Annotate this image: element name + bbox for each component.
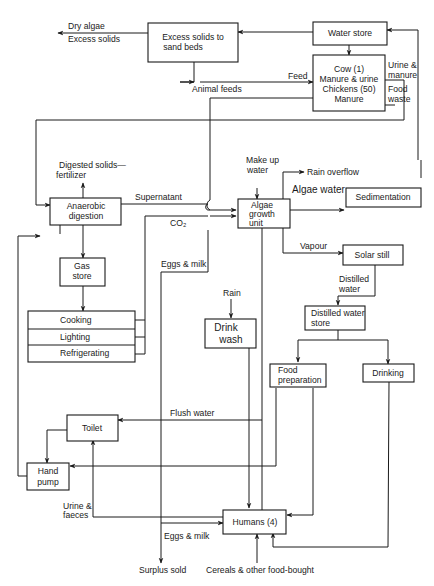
- node-distilled-water-store: Distilled water store: [305, 306, 365, 330]
- svg-text:Excess solids to: Excess solids to: [162, 32, 224, 42]
- svg-text:Distilled water: Distilled water: [311, 308, 365, 318]
- svg-text:Humans (4): Humans (4): [233, 517, 278, 527]
- label-eggs-milk-bottom: Eggs & milk: [164, 531, 210, 541]
- svg-text:unit: unit: [249, 218, 263, 228]
- svg-text:Drink: Drink: [214, 322, 238, 333]
- label-digested-solids-1: fertilizer: [56, 170, 86, 180]
- node-appliances: Cooking Lighting Refrigerating: [28, 311, 135, 362]
- label-dry-algae: Dry algae: [68, 21, 105, 31]
- label-food-waste-0: Food: [388, 84, 408, 94]
- label-rain: Rain: [223, 288, 241, 298]
- svg-text:Water store: Water store: [328, 28, 372, 38]
- svg-text:Solar still: Solar still: [355, 250, 390, 260]
- node-algae-growth-unit: Algae growth unit: [238, 199, 290, 228]
- label-rain-overflow: Rain overflow: [307, 167, 360, 177]
- svg-text:Refrigerating: Refrigerating: [60, 348, 109, 358]
- node-toilet: Toilet: [67, 415, 118, 441]
- svg-text:digestion: digestion: [69, 211, 104, 221]
- node-cow-chickens: Cow (1) Manure & urine Chickens (50) Man…: [313, 55, 385, 111]
- svg-text:Chickens (50): Chickens (50): [322, 84, 375, 94]
- svg-text:Toilet: Toilet: [82, 423, 103, 433]
- label-vapour: Vapour: [300, 241, 327, 251]
- node-drinking: Drinking: [363, 364, 414, 382]
- svg-text:Cow (1): Cow (1): [334, 64, 364, 74]
- svg-text:Lighting: Lighting: [60, 332, 90, 342]
- node-solar-still: Solar still: [343, 245, 403, 265]
- node-drink-wash: Drink wash: [205, 319, 256, 348]
- svg-text:Cooking: Cooking: [60, 315, 92, 325]
- label-cereals: Cereals & other food-bought: [206, 565, 315, 575]
- node-anaerobic-digestion: Anaerobic digestion: [50, 198, 121, 225]
- farm-flow-diagram: Excess solids to sand beds Water store C…: [0, 0, 434, 586]
- label-excess-solids: Excess solids: [68, 34, 120, 44]
- label-eggs-milk-top: Eggs & milk: [161, 259, 207, 269]
- label-algae-water: Algae water: [292, 184, 345, 195]
- svg-text:store: store: [311, 318, 330, 328]
- label-feed: Feed: [288, 71, 308, 81]
- svg-text:Drinking: Drinking: [372, 368, 404, 378]
- node-sedimentation: Sedimentation: [346, 188, 421, 207]
- svg-text:pump: pump: [37, 477, 59, 487]
- label-food-waste-1: waste: [387, 94, 411, 104]
- label-urine-faeces-1: faeces: [63, 510, 88, 520]
- svg-text:Gas: Gas: [74, 261, 90, 271]
- svg-text:sand beds: sand beds: [163, 42, 203, 52]
- node-water-store: Water store: [313, 22, 387, 45]
- svg-text:Anaerobic: Anaerobic: [67, 201, 106, 211]
- label-distilled-water-0: Distilled: [339, 274, 369, 284]
- label-make-up-water-1: water: [246, 165, 268, 175]
- svg-text:Manure: Manure: [334, 94, 363, 104]
- svg-text:Hand: Hand: [38, 466, 59, 476]
- svg-text:Manure & urine: Manure & urine: [320, 74, 379, 84]
- svg-text:wash: wash: [218, 334, 242, 345]
- node-excess-solids: Excess solids to sand beds: [148, 23, 238, 62]
- label-urine-manure-1: manure: [388, 70, 417, 80]
- svg-text:Sedimentation: Sedimentation: [356, 192, 411, 202]
- node-humans: Humans (4): [223, 510, 286, 534]
- label-distilled-water-1: water: [338, 284, 360, 294]
- label-supernatant: Supernatant: [135, 192, 182, 202]
- svg-text:store: store: [72, 271, 91, 281]
- label-flush-water: Flush water: [170, 408, 215, 418]
- label-animal-feeds: Animal feeds: [192, 84, 242, 94]
- label-urine-manure-0: Urine &: [388, 60, 417, 70]
- label-co2: CO₂: [170, 218, 186, 228]
- label-make-up-water-0: Make up: [246, 155, 279, 165]
- node-hand-pump: Hand pump: [27, 463, 69, 490]
- svg-text:Food: Food: [278, 365, 298, 375]
- svg-text:preparation: preparation: [278, 375, 322, 385]
- label-surplus-sold: Surplus sold: [139, 565, 187, 575]
- node-gas-store: Gas store: [60, 258, 105, 286]
- label-digested-solids-0: Digested solids—: [59, 160, 126, 170]
- node-food-preparation: Food preparation: [270, 364, 326, 387]
